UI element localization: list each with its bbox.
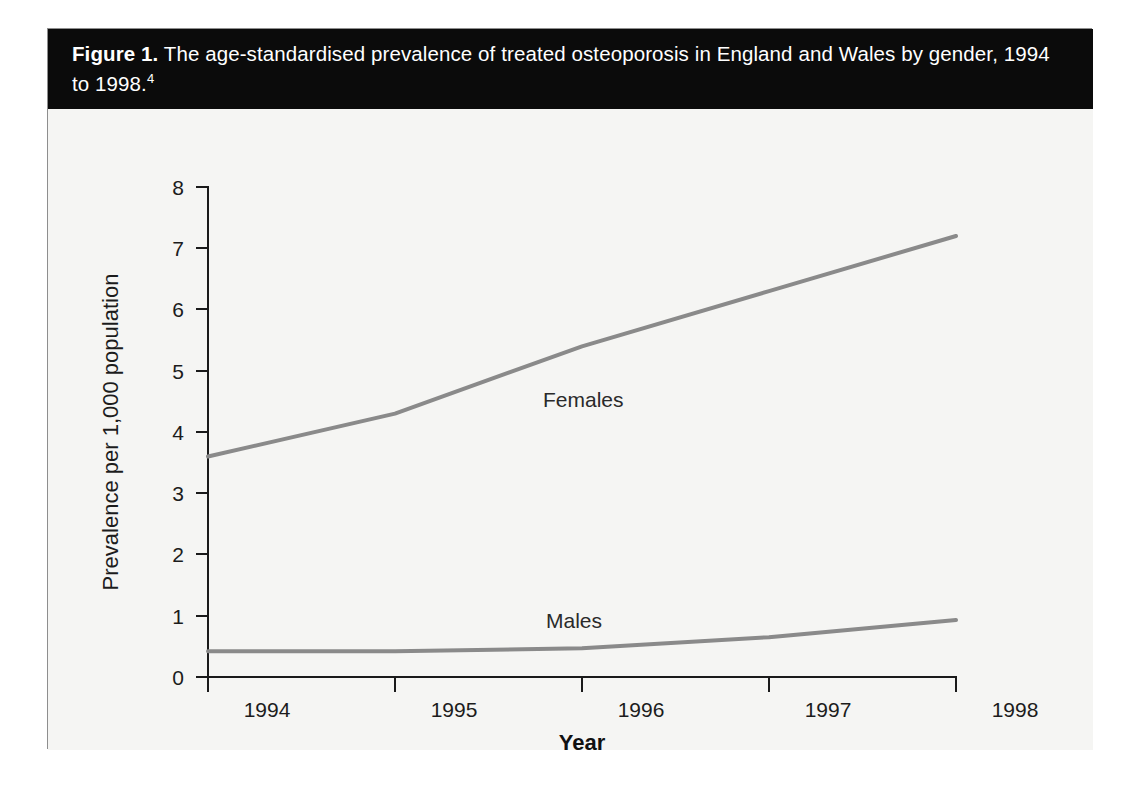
y-tick-label-0: 0 <box>172 666 184 689</box>
y-tick-label-4: 4 <box>172 421 184 444</box>
y-tick-label-5: 5 <box>172 360 184 383</box>
y-tick-label-8: 8 <box>172 176 184 199</box>
x-tick-label-1994: 1994 <box>244 698 291 721</box>
page-root: Figure 1. The age-standardised prevalenc… <box>0 0 1143 791</box>
figure-caption: Figure 1. The age-standardised prevalenc… <box>72 39 1062 99</box>
x-tick-label-1997: 1997 <box>805 698 852 721</box>
series-line-females <box>208 236 956 457</box>
series-label-males: Males <box>546 609 602 632</box>
line-chart: 8 7 6 5 4 3 2 1 0 <box>48 109 1093 750</box>
figure-container: Figure 1. The age-standardised prevalenc… <box>47 28 1092 749</box>
y-axis-title: Prevalence per 1,000 population <box>98 274 123 591</box>
series-label-females: Females <box>543 388 624 411</box>
y-axis-tick-labels: 8 7 6 5 4 3 2 1 0 <box>172 176 184 689</box>
x-tick-label-1995: 1995 <box>431 698 478 721</box>
y-tick-label-2: 2 <box>172 543 184 566</box>
x-axis-tick-labels: 1994 1995 1996 1997 1998 <box>244 698 1039 721</box>
x-tick-label-1998: 1998 <box>992 698 1039 721</box>
x-axis-ticks <box>208 677 956 692</box>
figure-caption-text: The age-standardised prevalence of treat… <box>72 42 1050 95</box>
figure-number-label: Figure 1. <box>72 42 158 65</box>
chart-plot-area: 8 7 6 5 4 3 2 1 0 <box>48 109 1093 750</box>
y-tick-label-1: 1 <box>172 605 184 628</box>
y-tick-label-6: 6 <box>172 298 184 321</box>
y-axis-ticks <box>196 187 208 677</box>
y-tick-label-7: 7 <box>172 237 184 260</box>
y-tick-label-3: 3 <box>172 482 184 505</box>
x-tick-label-1996: 1996 <box>618 698 665 721</box>
footnote-marker: 4 <box>147 71 154 86</box>
x-axis-title: Year <box>559 730 606 750</box>
figure-caption-band: Figure 1. The age-standardised prevalenc… <box>48 29 1093 109</box>
